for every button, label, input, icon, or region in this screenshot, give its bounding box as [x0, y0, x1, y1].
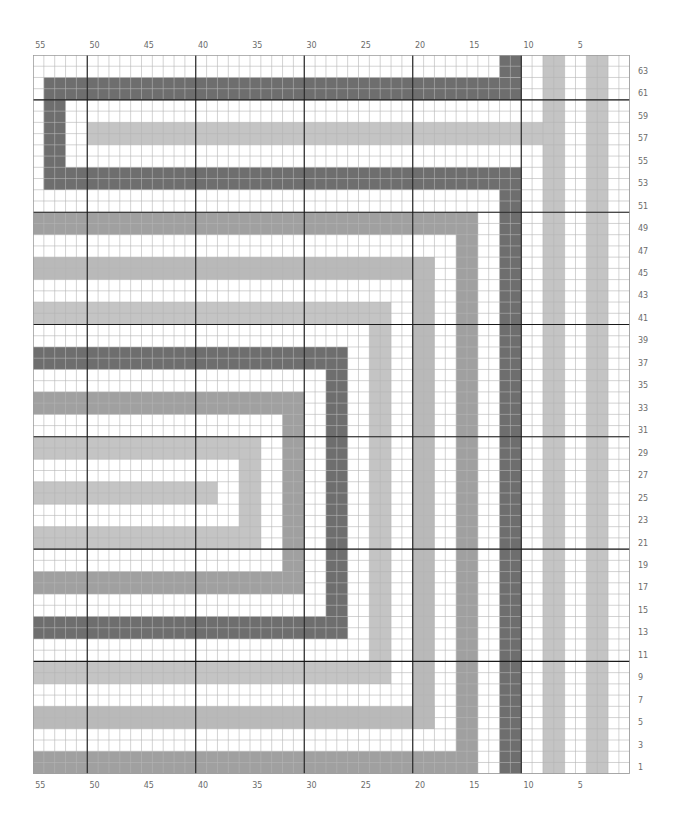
row-label: 7 [638, 696, 643, 706]
bottom-column-label: 20 [415, 781, 425, 791]
row-label: 33 [638, 404, 648, 414]
bottom-column-label: 45 [144, 781, 154, 791]
row-label: 31 [638, 426, 648, 436]
bottom-column-label: 10 [524, 781, 534, 791]
row-label: 5 [638, 718, 643, 728]
top-column-label: 35 [252, 41, 262, 51]
top-column-label: 25 [361, 41, 371, 51]
row-label: 39 [638, 336, 648, 346]
bottom-column-label: 5 [578, 781, 583, 791]
top-column-label: 5 [578, 41, 583, 51]
row-label: 29 [638, 449, 648, 459]
chart-grid [33, 55, 630, 774]
row-label: 49 [638, 224, 648, 234]
bottom-column-label: 15 [469, 781, 479, 791]
row-label: 25 [638, 494, 648, 504]
row-label: 57 [638, 134, 648, 144]
top-column-label: 50 [90, 41, 100, 51]
row-label: 9 [638, 673, 643, 683]
bottom-column-label: 30 [307, 781, 317, 791]
row-label: 53 [638, 179, 648, 189]
bottom-column-label: 50 [90, 781, 100, 791]
bottom-column-label: 25 [361, 781, 371, 791]
row-label: 37 [638, 359, 648, 369]
top-column-label: 20 [415, 41, 425, 51]
row-label: 63 [638, 67, 648, 77]
top-column-label: 55 [35, 41, 45, 51]
top-column-label: 40 [198, 41, 208, 51]
row-label: 17 [638, 583, 648, 593]
top-column-label: 30 [307, 41, 317, 51]
row-label: 13 [638, 628, 648, 638]
row-label: 61 [638, 89, 648, 99]
row-label: 43 [638, 291, 648, 301]
row-label: 51 [638, 202, 648, 212]
row-label: 59 [638, 112, 648, 122]
bottom-column-label: 55 [35, 781, 45, 791]
knitting-chart: 555045403530252015105 636159575553514947… [0, 0, 680, 829]
row-label: 11 [638, 651, 648, 661]
top-column-label: 15 [469, 41, 479, 51]
row-label: 19 [638, 561, 648, 571]
row-label: 15 [638, 606, 648, 616]
row-label: 47 [638, 247, 648, 257]
row-label: 35 [638, 381, 648, 391]
row-label: 23 [638, 516, 648, 526]
row-label: 27 [638, 471, 648, 481]
top-column-label: 10 [524, 41, 534, 51]
row-label: 45 [638, 269, 648, 279]
bottom-column-label: 40 [198, 781, 208, 791]
bottom-column-label: 35 [252, 781, 262, 791]
top-column-label: 45 [144, 41, 154, 51]
row-label: 41 [638, 314, 648, 324]
row-label: 21 [638, 539, 648, 549]
row-label: 55 [638, 157, 648, 167]
row-label: 3 [638, 741, 643, 751]
row-label: 1 [638, 763, 643, 773]
